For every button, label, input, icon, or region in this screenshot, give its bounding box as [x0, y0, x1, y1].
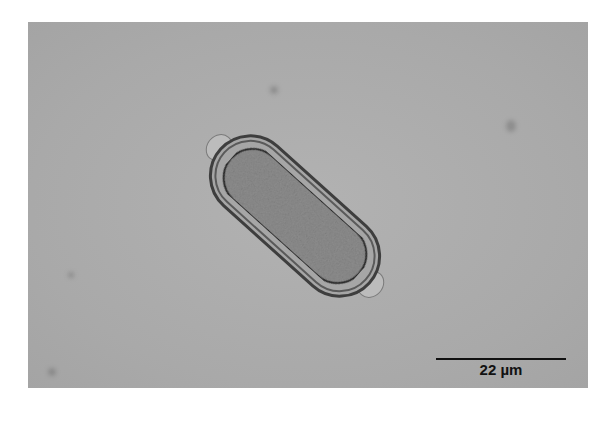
scale-bar-line — [436, 358, 566, 360]
scale-bar-label: 22 µm — [436, 361, 566, 378]
scale-bar: 22 µm — [436, 358, 566, 378]
